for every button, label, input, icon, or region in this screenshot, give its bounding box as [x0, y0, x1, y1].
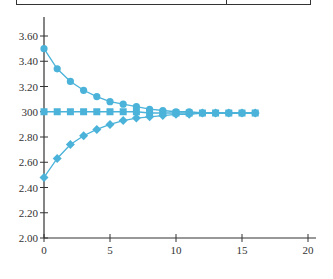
data-point-constant: [67, 108, 74, 115]
series-line-from-below: [44, 113, 255, 177]
data-point-from-above: [40, 45, 47, 52]
x-tick-label: 20: [303, 244, 315, 256]
axes: 2.002.202.402.602.803003.203.403.6005101…: [19, 17, 316, 256]
data-point-from-above: [93, 93, 100, 100]
data-point-from-above: [106, 98, 113, 105]
convergence-chart: 2.002.202.402.602.803003.203.403.6005101…: [0, 0, 333, 279]
data-point-from-below: [106, 120, 115, 129]
series-layer: [40, 45, 260, 182]
y-tick-label: 2.40: [19, 182, 39, 194]
data-point-from-above: [120, 101, 127, 108]
data-point-constant: [107, 108, 114, 115]
x-tick-label: 5: [107, 244, 113, 256]
data-point-from-below: [79, 131, 88, 140]
x-tick-label: 0: [41, 244, 47, 256]
y-tick-label: 300: [22, 106, 39, 118]
data-point-constant: [41, 108, 48, 115]
y-tick-label: 2.80: [19, 131, 39, 143]
y-tick-label: 2.60: [19, 156, 39, 168]
series-line-from-above: [44, 49, 255, 113]
x-tick-label: 15: [237, 244, 249, 256]
data-point-from-above: [67, 78, 74, 85]
data-point-from-below: [92, 125, 101, 134]
data-point-from-above: [54, 65, 61, 72]
x-tick-label: 10: [171, 244, 183, 256]
y-tick-label: 2.20: [19, 207, 39, 219]
y-tick-label: 3.20: [19, 81, 39, 93]
y-tick-label: 3.40: [19, 55, 39, 67]
data-point-from-above: [80, 87, 87, 94]
data-point-constant: [54, 108, 61, 115]
data-point-constant: [80, 108, 87, 115]
data-point-from-below: [119, 116, 128, 125]
data-point-from-below: [40, 173, 49, 182]
data-point-constant: [120, 108, 127, 115]
data-point-constant: [93, 108, 100, 115]
y-tick-label: 3.60: [19, 30, 39, 42]
y-tick-label: 2.00: [19, 232, 39, 244]
